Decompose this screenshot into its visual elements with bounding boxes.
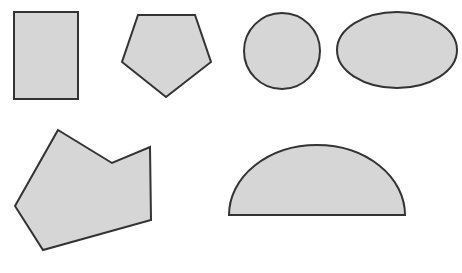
shape-concave-polygon	[15, 130, 151, 250]
shape-semicircle	[229, 145, 405, 215]
shape-ellipse	[337, 12, 457, 88]
shapes-svg-canvas	[0, 0, 462, 273]
shape-pentagon	[122, 15, 211, 97]
shape-circle	[244, 13, 320, 89]
geometric-shapes-figure	[0, 0, 462, 273]
shape-rectangle	[14, 12, 78, 99]
